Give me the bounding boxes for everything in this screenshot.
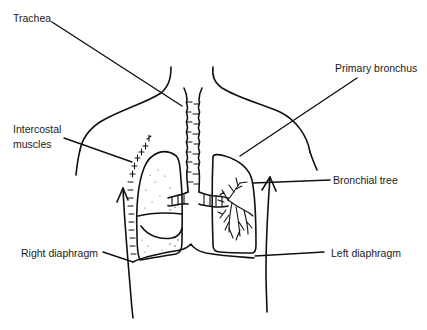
neck-left-contour bbox=[80, 67, 171, 150]
right-diaphragm-leader bbox=[103, 252, 133, 262]
trachea-rings bbox=[187, 102, 199, 184]
left-chest-wall bbox=[123, 188, 133, 318]
left-lung bbox=[212, 155, 256, 253]
bronchial-tree-leader bbox=[253, 180, 330, 183]
thorax-diagram: Trachea Intercostal muscles Primary bron… bbox=[0, 0, 427, 330]
leader-lines bbox=[52, 22, 357, 262]
label-bronchial-tree: Bronchial tree bbox=[333, 174, 398, 186]
right-arm-edge bbox=[310, 152, 317, 170]
left-diaphragm-leader bbox=[255, 252, 324, 256]
neck-right-contour bbox=[213, 67, 310, 152]
right-chest-wall bbox=[266, 177, 270, 312]
label-intercostal-line2: muscles bbox=[13, 138, 52, 150]
label-left-diaphragm: Left diaphragm bbox=[331, 247, 401, 259]
trachea-leader bbox=[52, 22, 182, 106]
bronchus-left-lower bbox=[199, 204, 228, 207]
labels: Trachea Intercostal muscles Primary bron… bbox=[13, 12, 417, 259]
label-intercostal-line1: Intercostal bbox=[13, 123, 61, 135]
primary-bronchus-leader bbox=[240, 78, 357, 156]
right-lung bbox=[137, 152, 183, 260]
right-lung-fissure-upper bbox=[138, 213, 182, 216]
bronchial-tree-branches bbox=[218, 178, 253, 240]
body-outline bbox=[76, 67, 317, 318]
right-lung-stipple bbox=[141, 169, 178, 252]
right-lung-fissure-lower bbox=[141, 226, 182, 239]
intercostal-leader bbox=[64, 138, 132, 162]
trachea-left-wall bbox=[184, 88, 188, 192]
left-arm-edge bbox=[76, 150, 80, 175]
left-chest-wall-arrowhead bbox=[117, 188, 128, 202]
label-primary-bronchus: Primary bronchus bbox=[335, 62, 417, 74]
primary-bronchi bbox=[168, 192, 228, 207]
label-right-diaphragm: Right diaphragm bbox=[21, 247, 98, 259]
label-trachea: Trachea bbox=[13, 12, 51, 24]
trachea bbox=[184, 88, 202, 192]
intercostal-marks bbox=[128, 135, 151, 254]
right-lung-outline bbox=[137, 152, 183, 260]
